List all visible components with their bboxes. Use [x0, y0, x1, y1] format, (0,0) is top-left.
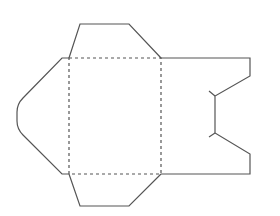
notch-tick-top [209, 91, 215, 96]
center-square-fold [69, 58, 161, 174]
notch-tick-bottom [209, 133, 215, 137]
bottom-flap-cut [69, 174, 161, 206]
box-net-diagram [0, 0, 280, 216]
top-flap-cut [69, 24, 161, 58]
left-flap-cut [17, 58, 69, 174]
right-panel-cut [161, 58, 250, 174]
